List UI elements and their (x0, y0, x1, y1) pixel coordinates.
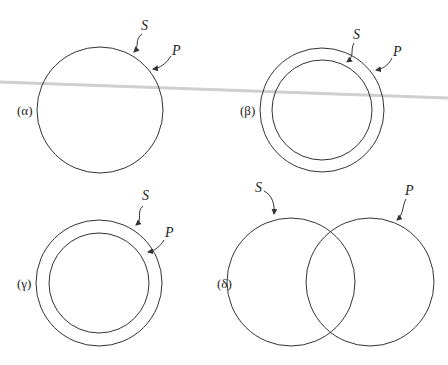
s-outer-circle (36, 220, 162, 346)
p-inner-circle (49, 233, 149, 333)
panel-label-beta: (β) (240, 103, 255, 118)
p-label: P (392, 44, 402, 59)
p-label: P (164, 225, 174, 240)
s-label: S (353, 27, 360, 42)
p-arrow-icon (397, 199, 406, 220)
p-label: P (171, 43, 181, 58)
panel-label-alpha: (α) (17, 103, 32, 118)
panel-label-delta: (δ) (217, 276, 232, 291)
s-inner-circle (272, 60, 372, 160)
sp-circle (37, 47, 163, 173)
panel-delta: (δ) S P (217, 180, 434, 346)
p-label: P (404, 183, 414, 198)
s-label: S (141, 18, 148, 33)
p-arrow-icon (153, 56, 171, 69)
s-arrow-icon (136, 206, 143, 225)
panel-gamma: (γ) S P (17, 188, 174, 346)
panel-label-gamma: (γ) (17, 276, 31, 291)
s-arrow-icon (347, 43, 354, 62)
s-circle (227, 218, 355, 346)
p-circle (306, 218, 434, 346)
s-label: S (255, 180, 262, 195)
s-arrow-icon (264, 191, 274, 214)
p-arrow-icon (376, 58, 392, 70)
s-label: S (142, 188, 149, 203)
euler-diagram-figure: (α) S P (β) S P (γ) S P (δ) S P (0, 0, 448, 365)
p-outer-circle (260, 48, 384, 172)
panel-beta: (β) S P (240, 27, 402, 172)
s-arrow-icon (134, 34, 142, 52)
panel-alpha: (α) S P (17, 18, 181, 173)
